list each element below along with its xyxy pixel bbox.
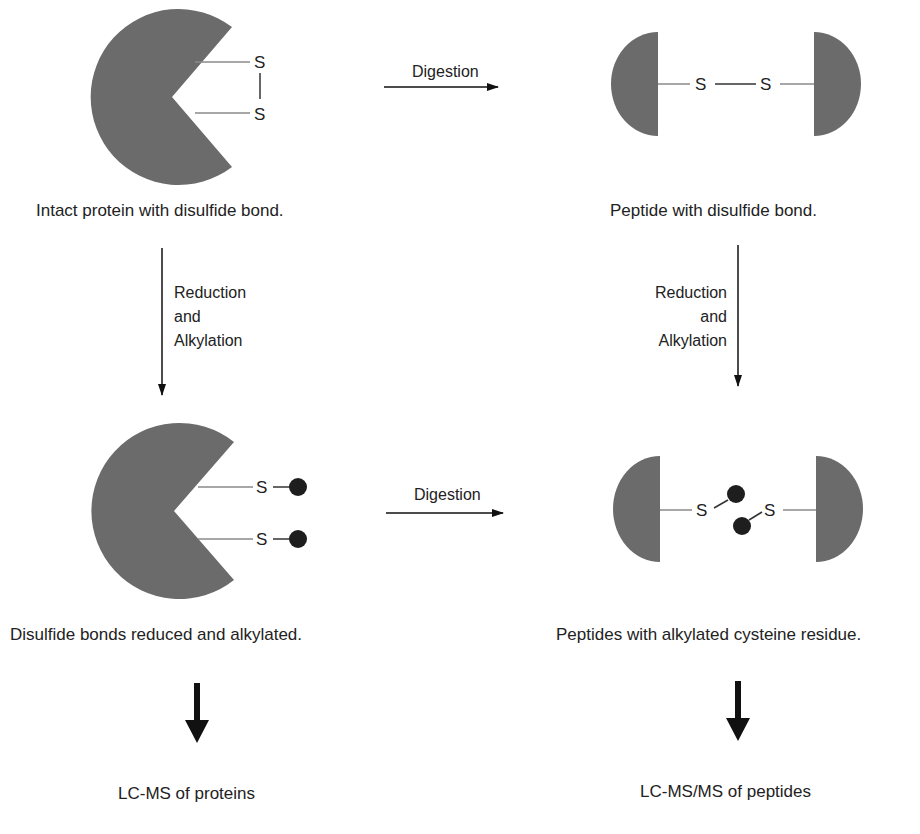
reduced-protein-graphic: S S bbox=[91, 423, 307, 599]
sulfur-atom: S bbox=[695, 75, 706, 94]
sulfur-atom: S bbox=[256, 530, 267, 549]
sulfur-atom: S bbox=[254, 53, 265, 72]
reduction-label: Reduction bbox=[174, 284, 246, 301]
and-label: and bbox=[700, 308, 727, 325]
peptide-right-half-icon bbox=[816, 456, 863, 562]
digestion-arrow-bottom: Digestion bbox=[386, 486, 503, 513]
output-arrow-right bbox=[726, 681, 750, 741]
digestion-label: Digestion bbox=[414, 486, 481, 503]
sulfur-atom: S bbox=[256, 478, 267, 497]
intact-protein-graphic: S S bbox=[91, 9, 266, 185]
sulfur-atom: S bbox=[696, 501, 707, 520]
peptide-left-half-icon bbox=[611, 32, 658, 136]
alkyl-group-dot-icon bbox=[289, 530, 307, 548]
alkyl-bond-line bbox=[714, 500, 728, 508]
alkyl-group-dot-icon bbox=[733, 517, 751, 535]
alkyl-group-dot-icon bbox=[289, 478, 307, 496]
peptide-disulfide-graphic: S S bbox=[611, 32, 861, 136]
digestion-arrow-top: Digestion bbox=[384, 63, 498, 87]
alkylation-label: Alkylation bbox=[659, 332, 727, 349]
thick-down-arrow-icon bbox=[726, 681, 750, 741]
caption-intact-protein: Intact protein with disulfide bond. bbox=[36, 201, 284, 220]
and-label: and bbox=[174, 308, 201, 325]
alkyl-bond-line bbox=[749, 512, 762, 520]
protein-pacman-icon bbox=[91, 9, 232, 185]
protein-pacman-icon bbox=[91, 423, 234, 599]
caption-peptides-alkylated: Peptides with alkylated cysteine residue… bbox=[556, 625, 861, 644]
caption-protein-reduced: Disulfide bonds reduced and alkylated. bbox=[10, 625, 302, 644]
output-label-right: LC-MS/MS of peptides bbox=[640, 782, 811, 801]
reduction-arrow-right: Reduction and Alkylation bbox=[655, 245, 738, 386]
digestion-label: Digestion bbox=[412, 63, 479, 80]
reduction-label: Reduction bbox=[655, 284, 727, 301]
alkyl-group-dot-icon bbox=[727, 485, 745, 503]
sulfur-atom: S bbox=[760, 75, 771, 94]
sulfur-atom: S bbox=[764, 501, 775, 520]
output-arrow-left bbox=[185, 683, 209, 743]
alkylation-label: Alkylation bbox=[174, 332, 242, 349]
caption-peptide-disulfide: Peptide with disulfide bond. bbox=[610, 201, 817, 220]
output-label-left: LC-MS of proteins bbox=[118, 784, 255, 803]
alkylated-peptides-graphic: S S bbox=[613, 456, 863, 562]
workflow-diagram: S S Intact protein with disulfide bond. … bbox=[0, 0, 920, 834]
peptide-right-half-icon bbox=[814, 32, 861, 136]
sulfur-atom: S bbox=[254, 105, 265, 124]
peptide-left-half-icon bbox=[613, 456, 660, 562]
reduction-arrow-left: Reduction and Alkylation bbox=[162, 248, 246, 395]
thick-down-arrow-icon bbox=[185, 683, 209, 743]
